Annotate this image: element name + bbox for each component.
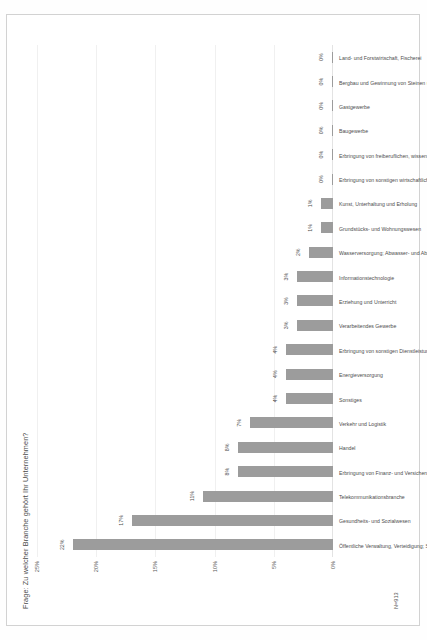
bar-value-label: 22% [59, 540, 65, 551]
y-axis-tick-label: 20% [93, 558, 99, 572]
category-axis-label: Erbringung von sonstigen wirtschaftliche… [339, 177, 427, 183]
bar-value-label: 0% [318, 127, 324, 135]
bar-slot[interactable]: 1% [37, 222, 333, 233]
category-axis-label: Wasserversorgung; Abwasser- und Abfallen… [339, 250, 427, 256]
bar[interactable] [132, 515, 333, 526]
category-axis-label: Land- und Forstwirtschaft, Fischerei [339, 55, 421, 61]
bar[interactable] [297, 271, 333, 282]
bar-slot[interactable]: 8% [37, 466, 333, 477]
bar[interactable] [332, 100, 333, 111]
bar[interactable] [238, 466, 333, 477]
sample-size-annotation: N=913 [393, 592, 399, 609]
bar[interactable] [250, 417, 333, 428]
bar-slot[interactable]: 3% [37, 271, 333, 282]
bar[interactable] [332, 125, 333, 136]
bar-slot[interactable]: 1% [37, 198, 333, 209]
bar-value-label: 3% [283, 273, 289, 281]
category-axis-label: Bergbau und Gewinnung von Steinen und Er… [339, 80, 427, 86]
bar-slot[interactable]: 0% [37, 149, 333, 160]
category-axis-label: Verarbeitendes Gewerbe [339, 323, 396, 329]
bar-slot[interactable]: 0% [37, 52, 333, 63]
bar-slot[interactable]: 3% [37, 296, 333, 307]
category-axis-label: Energieversorgung [339, 372, 383, 378]
bar-value-label: 17% [118, 515, 124, 526]
page-canvas: Frage: Zu welcher Branche gehört Ihr Unt… [0, 0, 427, 640]
bar-slot[interactable]: 3% [37, 320, 333, 331]
bar-slot[interactable]: 0% [37, 100, 333, 111]
category-axis-label: Kunst, Unterhaltung und Erholung [339, 201, 417, 207]
bar-slot[interactable]: 0% [37, 125, 333, 136]
category-axis-label: Erbringung von sonstigen Dienstleistunge… [339, 348, 427, 354]
category-axis-label: Öffentliche Verwaltung, Verteidigung; So… [339, 543, 427, 549]
bar[interactable] [203, 491, 333, 502]
bar-value-label: 4% [272, 370, 278, 378]
chart-title: Frage: Zu welcher Branche gehört Ihr Unt… [21, 433, 30, 609]
bar-series: 22%17%11%8%8%7%4%4%4%3%3%3%2%1%1%0%0%0%0… [37, 45, 333, 557]
category-axis-label: Verkehr und Logistik [339, 421, 386, 427]
bar-value-label: 4% [272, 346, 278, 354]
bar-value-label: 2% [295, 248, 301, 256]
bar[interactable] [332, 174, 333, 185]
bar-slot[interactable]: 22% [37, 539, 333, 550]
chart-sheet: Frage: Zu welcher Branche gehört Ihr Unt… [6, 14, 420, 626]
bar[interactable] [297, 296, 333, 307]
bar-value-label: 4% [272, 395, 278, 403]
bar[interactable] [309, 247, 333, 258]
bar-value-label: 1% [307, 200, 313, 208]
category-axis-label: Sonstiges [339, 397, 362, 403]
bar-value-label: 8% [224, 443, 230, 451]
bar-slot[interactable]: 4% [37, 344, 333, 355]
bar-value-label: 3% [283, 297, 289, 305]
bar-slot[interactable]: 4% [37, 369, 333, 380]
bar-slot[interactable]: 4% [37, 393, 333, 404]
category-axis-label: Telekommunikationsbranche [339, 494, 405, 500]
bar[interactable] [73, 539, 333, 550]
y-axis-tick-label: 15% [152, 558, 158, 572]
y-axis-tick-label: 25% [34, 558, 40, 572]
bar-value-label: 0% [318, 151, 324, 159]
category-axis-label: Handel [339, 445, 355, 451]
bar-value-label: 8% [224, 468, 230, 476]
bar-value-label: 0% [318, 102, 324, 110]
y-axis-tick-label: 0% [330, 558, 336, 569]
bar[interactable] [297, 320, 333, 331]
bar-value-label: 7% [236, 419, 242, 427]
category-axis-label: Gesundheits- und Sozialwesen [339, 518, 411, 524]
bar-slot[interactable]: 0% [37, 76, 333, 87]
bar[interactable] [332, 76, 333, 87]
bar[interactable] [332, 149, 333, 160]
bar-slot[interactable]: 2% [37, 247, 333, 258]
y-axis-tick-label: 10% [212, 558, 218, 572]
category-axis-label: Erbringung von Finanz- und Versicherungs… [339, 470, 427, 476]
rotated-chart-container: Frage: Zu welcher Branche gehört Ihr Unt… [7, 15, 421, 627]
category-axis-label: Grundstücks- und Wohnungswesen [339, 226, 421, 232]
bar[interactable] [332, 52, 333, 63]
bar-value-label: 11% [189, 491, 195, 501]
bar[interactable] [286, 369, 333, 380]
bar[interactable] [321, 222, 333, 233]
bar-value-label: 0% [318, 53, 324, 61]
bar-slot[interactable]: 0% [37, 174, 333, 185]
category-axis-label: Erbringung von freiberuflichen, wissensc… [339, 153, 427, 159]
y-axis-tick-label: 5% [271, 558, 277, 569]
category-axis-label: Baugewerbe [339, 128, 368, 134]
plot-area: 0%5%10%15%20%25% 22%17%11%8%8%7%4%4%4%3%… [37, 45, 333, 557]
bar-slot[interactable]: 17% [37, 515, 333, 526]
bar[interactable] [321, 198, 333, 209]
bar-value-label: 3% [283, 322, 289, 330]
bar[interactable] [286, 344, 333, 355]
bar-value-label: 0% [318, 175, 324, 183]
bar[interactable] [286, 393, 333, 404]
category-axis-label: Erziehung und Unterricht [339, 299, 396, 305]
bar[interactable] [238, 442, 333, 453]
bar-slot[interactable]: 8% [37, 442, 333, 453]
bar-value-label: 0% [318, 78, 324, 86]
category-axis-label: Gastgewerbe [339, 104, 370, 110]
category-axis-label: Informationstechnologie [339, 275, 394, 281]
bar-value-label: 1% [307, 224, 313, 232]
bar-slot[interactable]: 7% [37, 417, 333, 428]
bar-slot[interactable]: 11% [37, 491, 333, 502]
